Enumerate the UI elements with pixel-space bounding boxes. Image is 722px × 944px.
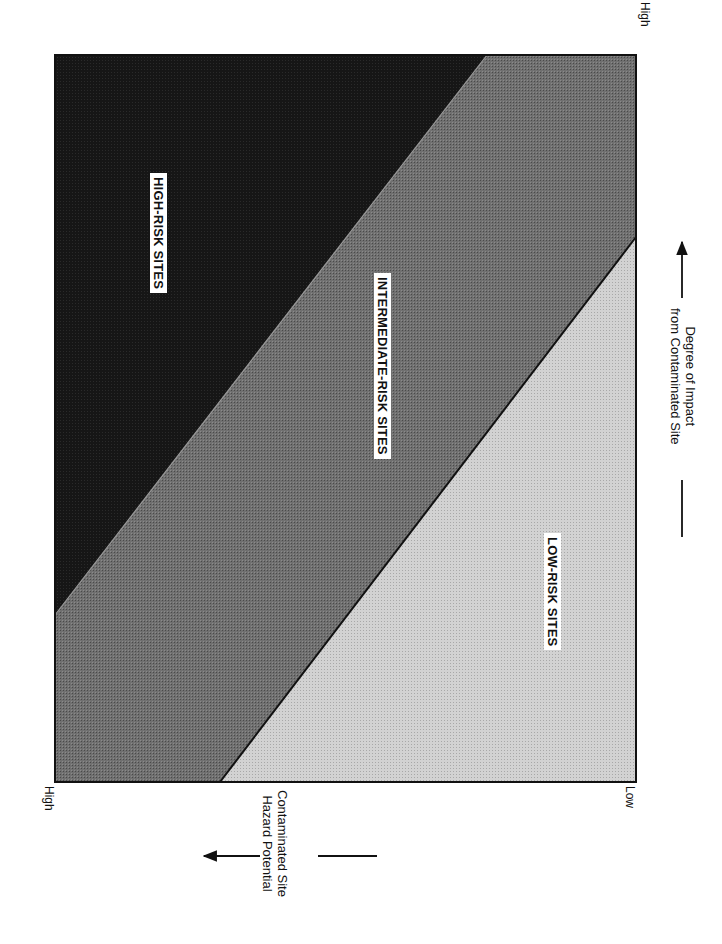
high-risk-label: HIGH-RISK SITES bbox=[150, 173, 167, 293]
hazard-tick-low: Low bbox=[623, 786, 637, 808]
risk-classification-diagram: HIGH-RISK SITES INTERMEDIATE-RISK SITES … bbox=[0, 0, 722, 944]
impact-axis-title-line2: from Contaminated Site bbox=[668, 308, 683, 445]
diagram-canvas bbox=[0, 0, 722, 944]
low-risk-label: LOW-RISK SITES bbox=[544, 533, 561, 650]
hazard-tick-high: High bbox=[42, 786, 56, 811]
impact-axis-title-line1: Degree of Impact bbox=[683, 308, 698, 445]
hazard-axis-title: Contaminated Site Hazard Potential bbox=[260, 790, 290, 897]
intermediate-risk-label: INTERMEDIATE-RISK SITES bbox=[374, 273, 391, 459]
impact-tick-high: High bbox=[638, 2, 652, 27]
hazard-axis-title-line2: Hazard Potential bbox=[260, 790, 275, 897]
impact-axis-title: Degree of Impact from Contaminated Site bbox=[668, 308, 698, 445]
hazard-axis-title-line1: Contaminated Site bbox=[275, 790, 290, 897]
